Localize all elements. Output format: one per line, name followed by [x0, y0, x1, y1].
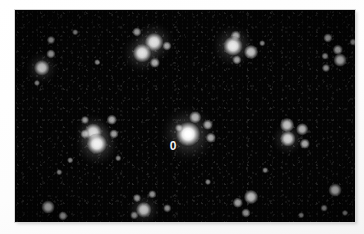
sky-background-noise	[15, 10, 355, 222]
star-label: 0	[170, 140, 177, 152]
star-field-plate: 0	[15, 10, 355, 222]
screenshot-root: 0	[0, 0, 364, 234]
